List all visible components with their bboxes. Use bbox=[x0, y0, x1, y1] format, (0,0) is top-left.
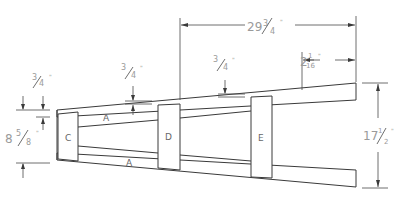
dim-offset-den: 16 bbox=[306, 62, 315, 70]
dim-thk-mid-den: 4 bbox=[131, 71, 136, 80]
frame-drawing: C D E A A 29 3 4 " 2 1 16 " bbox=[0, 0, 408, 200]
dim-offset-unit: " bbox=[318, 52, 321, 59]
rail-bottom-label: A bbox=[126, 158, 133, 168]
dim-thk-mid-unit: " bbox=[140, 64, 143, 71]
dim-thk-right-num: 3 bbox=[213, 55, 218, 64]
block-c-label: C bbox=[65, 133, 71, 143]
dim-overall-den: 4 bbox=[270, 27, 275, 36]
dim-wide-whole: 17 bbox=[363, 129, 378, 143]
block-e: E bbox=[251, 96, 272, 178]
block-d-label: D bbox=[165, 132, 172, 142]
inner-rail-top-de bbox=[180, 111, 251, 118]
dim-thk-right-unit: " bbox=[232, 56, 235, 63]
dim-wide-unit: " bbox=[391, 127, 394, 134]
rail-top bbox=[57, 83, 356, 117]
dim-narrow-whole: 8 bbox=[5, 132, 13, 146]
dim-narrow-end: 8 5 8 " bbox=[5, 129, 50, 178]
dim-thk-left-unit: " bbox=[49, 73, 52, 80]
dim-overall-unit: " bbox=[280, 18, 283, 25]
dim-thickness-left: 3 4 " bbox=[16, 73, 52, 130]
dim-wide-end: 17 1 2 " bbox=[362, 83, 394, 188]
block-e-label: E bbox=[258, 133, 264, 143]
dim-overall-whole: 29 bbox=[247, 20, 262, 34]
inner-rail-bottom-cd bbox=[78, 146, 158, 153]
dim-thk-left-num: 3 bbox=[32, 73, 37, 82]
block-d: D bbox=[158, 104, 180, 170]
dim-narrow-unit: " bbox=[36, 129, 39, 136]
dim-offset-num: 1 bbox=[308, 52, 312, 60]
dim-overall-num: 3 bbox=[263, 19, 268, 28]
dim-narrow-num: 5 bbox=[16, 129, 21, 138]
dim-narrow-den: 8 bbox=[26, 138, 31, 147]
block-c: C bbox=[58, 112, 78, 161]
rail-bottom bbox=[57, 153, 356, 187]
dim-wide-den: 2 bbox=[384, 138, 388, 146]
dim-thk-mid-num: 3 bbox=[121, 63, 126, 72]
dim-thickness-right: 3 4 " bbox=[213, 55, 245, 97]
dim-thk-right-den: 4 bbox=[223, 63, 228, 72]
inner-rail-top-cd bbox=[78, 120, 158, 127]
dim-thk-left-den: 4 bbox=[39, 79, 44, 88]
rail-top-label: A bbox=[103, 113, 110, 123]
dim-wide-num: 1 bbox=[378, 127, 382, 135]
